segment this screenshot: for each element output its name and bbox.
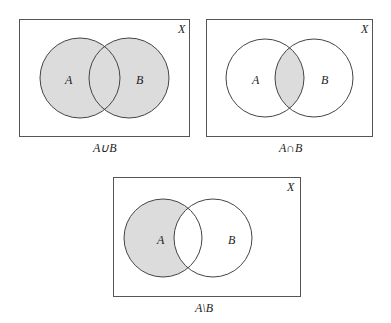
caption: A\B <box>194 301 214 315</box>
venn-union: X A B A∪B <box>20 20 190 156</box>
set-a-label: A <box>251 73 260 87</box>
set-b-label: B <box>321 73 329 87</box>
set-a-label: A <box>64 73 73 87</box>
set-b-label: B <box>228 233 236 247</box>
venn-diagrams-figure: X A B A∪B X A B A∩B X A B A\B <box>0 0 391 323</box>
caption: A∩B <box>278 141 303 155</box>
universe-label: X <box>360 22 369 36</box>
venn-difference: X A B A\B <box>114 178 301 316</box>
venn-intersection: X A B A∩B <box>207 20 373 156</box>
universe-label: X <box>177 22 186 36</box>
set-b-label: B <box>136 73 144 87</box>
caption: A∪B <box>92 141 117 155</box>
universe-label: X <box>286 180 295 194</box>
set-a-label: A <box>156 233 165 247</box>
